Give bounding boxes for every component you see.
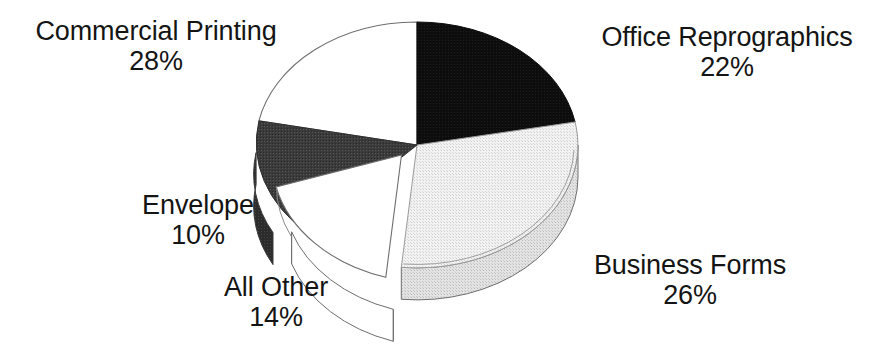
pie-chart: Commercial Printing 28% Office Reprograp… <box>0 0 887 364</box>
slice-label-business-forms: Business Forms 26% <box>556 250 824 310</box>
slice-label-name: Business Forms <box>556 250 824 280</box>
slice-label-commercial-printing: Commercial Printing 28% <box>6 16 306 76</box>
slice-label-office-reprographics: Office Reprographics 22% <box>574 22 880 82</box>
slice-label-percent: 26% <box>556 280 824 310</box>
slice-label-percent: 10% <box>108 220 288 250</box>
slice-business-forms <box>401 122 578 268</box>
slice-label-name: Office Reprographics <box>574 22 880 52</box>
slice-label-percent: 14% <box>176 302 376 332</box>
slice-label-all-other: All Other 14% <box>176 272 376 332</box>
slice-label-name: Commercial Printing <box>6 16 306 46</box>
slice-label-percent: 28% <box>6 46 306 76</box>
slice-label-name: All Other <box>176 272 376 302</box>
slice-label-envelope: Envelope 10% <box>108 190 288 250</box>
slice-label-name: Envelope <box>108 190 288 220</box>
slice-label-percent: 22% <box>574 52 880 82</box>
